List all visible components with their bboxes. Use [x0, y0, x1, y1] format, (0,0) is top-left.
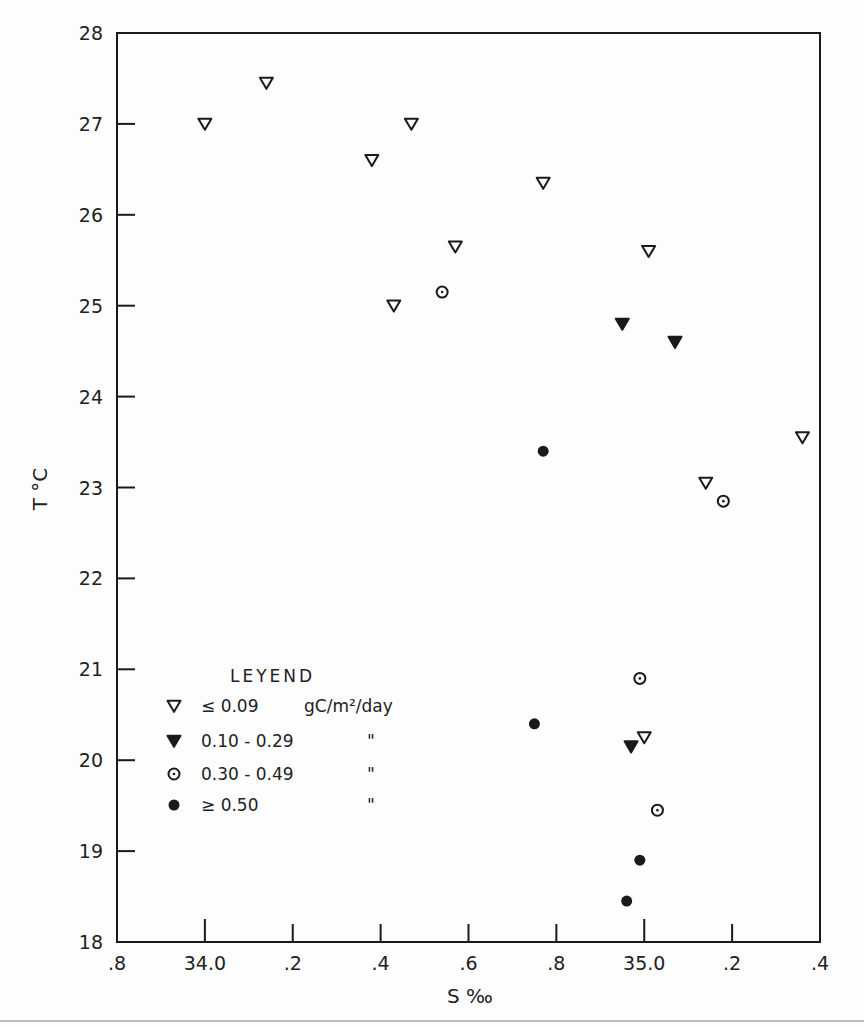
legend-title: LEYEND: [230, 666, 315, 686]
data-point-filled-circle-icon: [529, 718, 540, 729]
x-tick-label: .4: [811, 952, 829, 974]
y-tick-label: 28: [79, 22, 103, 44]
legend-label: 0.30 - 0.49: [201, 764, 294, 784]
x-axis-title: S ‰: [447, 984, 493, 1008]
data-point-filled-circle-icon: [621, 896, 632, 907]
data-point-triangle-icon: [796, 432, 809, 443]
y-tick-label: 27: [79, 113, 103, 135]
legend-marker-filled-circle-icon: [169, 800, 180, 811]
data-point-dotted-circle-icon: [718, 496, 729, 507]
data-point-triangle-icon: [642, 246, 655, 257]
x-tick-label: .8: [547, 952, 565, 974]
data-point-dotted-circle-icon: [437, 287, 448, 298]
x-tick-label: 34.0: [184, 952, 226, 974]
data-point-triangle-icon: [638, 732, 651, 743]
y-axis-title: T °C: [28, 468, 52, 512]
y-tick-label: 25: [79, 295, 103, 317]
y-tick-label: 26: [79, 204, 103, 226]
legend-unit: gC/m²/day: [304, 696, 393, 716]
x-tick-label: .2: [284, 952, 302, 974]
y-tick-label: 23: [79, 477, 103, 499]
data-point-triangle-icon: [365, 155, 378, 166]
data-point-triangle-icon: [699, 478, 712, 489]
legend-entry: ≥ 0.50": [169, 795, 375, 815]
data-point-triangle-icon: [198, 119, 211, 130]
legend-unit: ": [367, 764, 375, 784]
x-tick-label: .8: [108, 952, 126, 974]
x-tick-label: 35.0: [623, 952, 665, 974]
page-edge-divider: [0, 1020, 864, 1022]
x-tick-label: .6: [459, 952, 477, 974]
legend-label: 0.10 - 0.29: [201, 731, 294, 751]
ts-scatter-chart: .834.0.2.4.6.835.0.2.4 18192021222324252…: [0, 0, 864, 1027]
legend-entry: ≤ 0.09gC/m²/day: [168, 696, 393, 716]
y-tick-label: 18: [79, 931, 103, 953]
y-tick-label: 22: [79, 567, 103, 589]
data-point-triangle-icon: [405, 119, 418, 130]
legend: LEYEND ≤ 0.09gC/m²/day0.10 - 0.29"0.30 -…: [168, 666, 393, 815]
y-tick-label: 19: [79, 840, 103, 862]
x-tick-label: .4: [372, 952, 390, 974]
data-point-triangle-icon: [625, 741, 638, 752]
data-point-triangle-icon: [669, 337, 682, 348]
series-group: [437, 287, 729, 816]
data-point-triangle-icon: [616, 319, 629, 330]
series-group: [529, 446, 645, 907]
legend-marker-triangle-icon: [168, 736, 181, 747]
data-point-triangle-icon: [449, 241, 462, 252]
data-point-filled-circle-icon: [538, 446, 549, 457]
legend-marker-triangle-icon: [168, 701, 181, 712]
y-tick-label: 21: [79, 658, 103, 680]
y-tick-label: 20: [79, 749, 103, 771]
legend-entry: 0.10 - 0.29": [168, 731, 375, 751]
data-point-triangle-icon: [260, 78, 273, 89]
legend-label: ≥ 0.50: [201, 795, 259, 815]
x-tick-label: .2: [723, 952, 741, 974]
data-point-triangle-icon: [537, 178, 550, 189]
x-axis-ticks: .834.0.2.4.6.835.0.2.4: [108, 919, 829, 974]
legend-label: ≤ 0.09: [201, 696, 259, 716]
series-group: [198, 78, 809, 744]
data-point-dotted-circle-icon: [652, 805, 663, 816]
legend-marker-dotted-circle-icon: [169, 769, 180, 780]
legend-entry: 0.30 - 0.49": [169, 764, 375, 784]
series-group: [616, 319, 682, 753]
legend-unit: ": [367, 731, 375, 751]
y-tick-label: 24: [79, 386, 103, 408]
y-axis-ticks: 1819202122232425262728: [79, 22, 135, 953]
data-point-filled-circle-icon: [634, 855, 645, 866]
data-point-dotted-circle-icon: [634, 673, 645, 684]
legend-unit: ": [367, 795, 375, 815]
data-point-triangle-icon: [387, 301, 400, 312]
